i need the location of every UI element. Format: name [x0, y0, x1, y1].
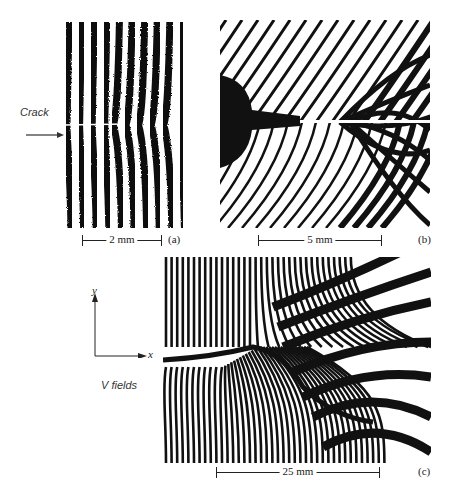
panel-b-image — [220, 20, 430, 228]
panel-c-label: (c) — [418, 465, 430, 477]
fringe-pattern-a — [65, 22, 183, 228]
scale-bar-a: 2 mm — [82, 234, 162, 246]
y-axis-label: y — [92, 284, 97, 296]
scale-bar-c-label: 25 mm — [280, 465, 317, 478]
panel-a-label: (a) — [168, 233, 180, 245]
panel-b-label: (b) — [418, 233, 431, 245]
scale-bar-a-label: 2 mm — [106, 233, 137, 246]
crack-annotation: Crack — [20, 106, 49, 118]
fringe-pattern-b — [220, 20, 430, 228]
crack-arrow-icon — [26, 124, 64, 130]
scale-bar-b-label: 5 mm — [304, 233, 335, 246]
panel-c-image — [163, 257, 431, 463]
v-fields-label: V fields — [101, 379, 137, 391]
fringe-pattern-c — [163, 257, 431, 463]
x-axis-label: x — [148, 348, 153, 360]
scale-bar-b: 5 mm — [258, 234, 382, 246]
panel-a-image — [65, 22, 183, 228]
scale-bar-c: 25 mm — [216, 466, 380, 478]
